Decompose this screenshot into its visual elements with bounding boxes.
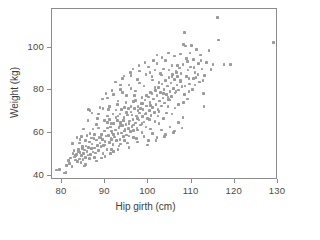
data-point: [179, 79, 182, 82]
data-point: [152, 59, 155, 62]
data-point: [105, 92, 108, 95]
data-point: [93, 133, 96, 136]
data-point: [76, 136, 79, 139]
data-point: [128, 84, 131, 87]
data-point: [130, 74, 133, 77]
data-point: [133, 107, 136, 110]
data-point: [136, 141, 139, 144]
data-point: [175, 90, 178, 93]
data-point: [161, 56, 164, 59]
data-point: [117, 100, 120, 103]
data-point: [149, 91, 152, 94]
data-point: [78, 142, 81, 145]
x-tick-mark: [147, 179, 148, 183]
data-point: [73, 149, 76, 152]
data-point: [212, 63, 215, 66]
data-point: [122, 135, 125, 138]
data-point: [71, 165, 74, 168]
data-point: [125, 123, 128, 126]
data-point: [177, 89, 180, 92]
data-point: [100, 136, 103, 139]
data-point: [127, 107, 130, 110]
data-point: [91, 143, 94, 146]
data-point: [83, 165, 86, 168]
data-point: [177, 121, 180, 124]
data-point: [153, 111, 156, 114]
data-point: [158, 110, 161, 113]
data-point: [123, 75, 126, 78]
data-point: [197, 73, 200, 76]
data-point: [191, 88, 194, 91]
data-point: [87, 119, 90, 122]
data-point: [167, 52, 170, 55]
data-point: [171, 113, 174, 116]
data-point: [165, 112, 168, 115]
data-point: [76, 160, 79, 163]
data-point: [162, 68, 165, 71]
data-point: [170, 95, 173, 98]
data-point: [155, 103, 158, 106]
data-point: [217, 39, 220, 42]
data-point: [201, 68, 204, 71]
data-point: [94, 152, 97, 155]
data-point: [99, 142, 102, 145]
data-point: [92, 128, 95, 131]
data-point: [151, 79, 154, 82]
data-point: [104, 140, 107, 143]
data-point: [108, 105, 111, 108]
data-point: [88, 157, 91, 160]
data-point: [90, 147, 93, 150]
data-point: [192, 77, 195, 80]
x-tick-label: 110: [176, 185, 206, 196]
data-point: [93, 156, 96, 159]
data-point: [171, 64, 174, 67]
data-point: [137, 109, 140, 112]
data-point: [156, 136, 159, 139]
x-tick-label: 90: [89, 185, 119, 196]
data-point: [129, 130, 132, 133]
data-point: [208, 49, 211, 52]
data-point: [198, 81, 201, 84]
data-point: [141, 96, 144, 99]
data-point: [183, 31, 186, 34]
data-point: [169, 126, 172, 129]
data-point: [123, 130, 126, 133]
data-point: [156, 62, 159, 65]
data-point: [89, 132, 92, 135]
data-point: [112, 133, 115, 136]
data-point: [97, 127, 100, 130]
data-point: [71, 142, 74, 145]
data-point: [177, 103, 180, 106]
data-point: [117, 148, 120, 151]
data-point: [149, 101, 152, 104]
data-point: [185, 75, 188, 78]
data-point: [150, 114, 153, 117]
data-point: [112, 93, 115, 96]
data-point: [172, 87, 175, 90]
data-point: [194, 84, 197, 87]
data-point: [136, 129, 139, 132]
data-point: [95, 160, 98, 163]
data-point: [188, 77, 191, 80]
data-point: [65, 164, 68, 167]
data-point: [169, 90, 172, 93]
data-point: [116, 103, 119, 106]
data-point: [103, 119, 106, 122]
data-point: [104, 155, 107, 158]
data-point: [106, 148, 109, 151]
x-tick-label: 120: [219, 185, 249, 196]
data-point: [82, 152, 85, 155]
data-point: [130, 87, 133, 90]
data-point: [164, 59, 167, 62]
data-point: [154, 69, 157, 72]
data-point: [162, 97, 165, 100]
data-point: [184, 45, 187, 48]
data-point: [114, 81, 117, 84]
data-point: [69, 157, 72, 160]
data-point: [119, 138, 122, 141]
data-point: [96, 117, 99, 120]
data-point: [147, 66, 150, 69]
data-point: [100, 133, 103, 136]
data-point: [189, 52, 192, 55]
data-point: [173, 78, 176, 81]
